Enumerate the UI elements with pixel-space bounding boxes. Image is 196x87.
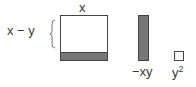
xy-bar [138,15,149,61]
label-minus-xy: −xy [132,65,153,78]
brace-icon [49,19,57,49]
label-exponent: 2 [179,64,184,74]
label-y-squared: y2 [172,66,184,79]
label-x-minus-y: x − y [7,24,35,37]
small-square [174,51,184,61]
label-x: x [79,1,86,14]
shaded-strip [60,52,108,61]
